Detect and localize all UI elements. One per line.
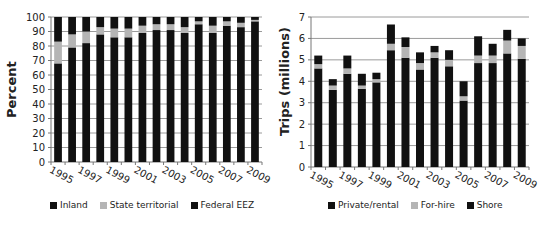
bar-segment	[153, 17, 161, 24]
y-tick-label: 60	[32, 70, 45, 81]
bar-segment	[431, 46, 439, 52]
y-tick-label: 100	[26, 12, 45, 23]
bar-segment	[460, 81, 468, 96]
y-tick-label: 7	[299, 12, 305, 23]
bar-segment	[358, 89, 366, 167]
x-tick-label: 2007	[217, 164, 245, 186]
y-tick-label: 0	[39, 157, 45, 168]
bar-segment	[503, 53, 511, 167]
bar-segment	[110, 17, 118, 29]
bar-segment	[139, 33, 147, 162]
trips-by-mode-chart: 0123456719951997199920012003200520072009…	[275, 0, 549, 225]
x-tick-label: 1999	[104, 164, 132, 186]
bar-segment	[503, 41, 511, 54]
bar-segment	[329, 79, 337, 85]
bar-segment	[518, 59, 526, 167]
bar-segment	[82, 17, 90, 32]
swatch-icon	[100, 202, 107, 209]
bar-segment	[416, 52, 424, 63]
bar-segment	[124, 17, 132, 29]
bar-segment	[474, 36, 482, 55]
legend-item-inland: Inland	[50, 200, 88, 210]
bar-segment	[167, 24, 175, 30]
x-tick-label: 1999	[366, 169, 394, 191]
bar-segment	[314, 64, 322, 68]
bar-segment	[372, 79, 380, 82]
bar-segment	[445, 60, 453, 66]
bar-segment	[329, 86, 337, 90]
bar-segment	[387, 50, 395, 167]
bar-segment	[518, 38, 526, 46]
bar-segment	[387, 44, 395, 50]
bar-segment	[460, 101, 468, 167]
bar-segment	[358, 74, 366, 86]
y-tick-label: 1	[299, 140, 305, 151]
bar-segment	[153, 30, 161, 162]
y-tick-label: 20	[32, 128, 45, 139]
bar-segment	[54, 17, 62, 42]
bar-segment	[343, 74, 351, 167]
percent-plot-area: 0102030405060708090100199519971999200120…	[0, 0, 275, 225]
bar-segment	[96, 34, 104, 162]
bar-segment	[223, 21, 231, 25]
bar-segment	[474, 63, 482, 167]
x-tick-label: 1997	[337, 169, 365, 191]
bar-segment	[431, 58, 439, 167]
bar-segment	[387, 25, 395, 44]
bar-segment	[54, 42, 62, 64]
bar-segment	[209, 26, 217, 33]
bar-segment	[139, 17, 147, 26]
bar-segment	[181, 27, 189, 33]
bar-segment	[518, 46, 526, 59]
x-tick-label: 1995	[308, 169, 336, 191]
y-axis-title: Percent	[4, 61, 19, 118]
swatch-icon	[50, 202, 57, 209]
bar-segment	[96, 17, 104, 27]
y-tick-label: 40	[32, 99, 45, 110]
bar-segment	[237, 23, 245, 27]
bar-segment	[209, 17, 217, 26]
bar-segment	[68, 47, 76, 162]
y-tick-label: 3	[299, 97, 305, 108]
bar-segment	[431, 52, 439, 57]
bar-segment	[251, 21, 259, 162]
bar-segment	[329, 90, 337, 167]
bar-segment	[358, 86, 366, 89]
y-tick-label: 70	[32, 55, 45, 66]
y-tick-label: 5	[299, 54, 305, 65]
x-tick-label: 2005	[189, 164, 217, 186]
y-tick-label: 80	[32, 41, 45, 52]
bar-segment	[209, 33, 217, 162]
bar-segment	[474, 56, 482, 64]
x-tick-label: 2009	[245, 164, 273, 186]
y-axis-title: Trips (millions)	[277, 27, 292, 136]
bar-segment	[251, 20, 259, 21]
bar-segment	[195, 24, 203, 162]
swatch-icon	[411, 202, 418, 209]
y-tick-label: 10	[32, 142, 45, 153]
x-tick-label: 1995	[48, 164, 76, 186]
bar-segment	[153, 24, 161, 30]
bar-segment	[251, 17, 259, 20]
bar-segment	[489, 63, 497, 167]
bar-segment	[124, 29, 132, 38]
bar-segment	[181, 17, 189, 27]
bar-segment	[343, 68, 351, 73]
x-tick-label: 2003	[160, 164, 188, 186]
y-tick-label: 2	[299, 119, 305, 130]
bar-segment	[54, 63, 62, 162]
bar-segment	[124, 37, 132, 162]
legend: Private/rental For-hire Shore	[328, 200, 503, 210]
x-tick-label: 2007	[482, 169, 510, 191]
y-tick-label: 0	[299, 162, 305, 173]
bar-segment	[401, 58, 409, 167]
bar-segment	[314, 68, 322, 167]
legend-item-private-rental: Private/rental	[328, 200, 399, 210]
bar-segment	[110, 37, 118, 162]
bar-segment	[372, 73, 380, 79]
bar-segment	[445, 50, 453, 60]
legend-item-state-territorial: State territorial	[100, 200, 179, 210]
bar-segment	[401, 47, 409, 58]
bar-segment	[314, 56, 322, 65]
bar-segment	[401, 37, 409, 47]
